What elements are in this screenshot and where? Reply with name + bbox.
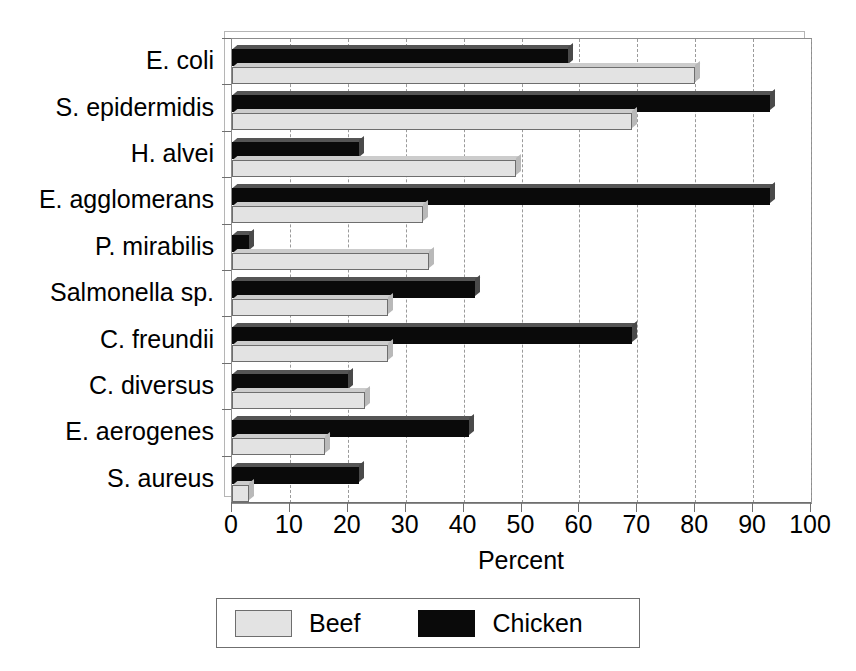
x-axis-tick-label: 20 <box>333 512 361 537</box>
y-axis-tick <box>222 38 231 39</box>
bar-group <box>232 132 811 178</box>
bar-end-cap <box>249 228 254 249</box>
bar-beef <box>232 67 695 84</box>
bar-face <box>232 392 365 409</box>
y-axis-tick <box>222 363 231 364</box>
category-label: S. epidermidis <box>56 95 214 120</box>
bar-end-cap <box>388 339 393 360</box>
category-label: E. aerogenes <box>65 419 214 444</box>
bar-group <box>232 410 811 456</box>
bar-beef <box>232 485 249 502</box>
category-label: E. coli <box>146 48 214 73</box>
bar-end-cap <box>423 200 428 221</box>
plot-area <box>231 38 812 504</box>
bar-end-cap <box>516 154 521 175</box>
bar-face <box>232 67 695 84</box>
bar-end-cap <box>429 246 434 267</box>
legend: BeefChicken <box>216 598 640 648</box>
bar-beef <box>232 392 365 409</box>
bar-beef <box>232 345 388 362</box>
x-axis-title: Percent <box>231 548 811 573</box>
gridline <box>811 39 812 503</box>
bar-group <box>232 85 811 131</box>
bar-end-cap <box>365 386 370 407</box>
category-label: P. mirabilis <box>95 234 214 259</box>
bar-end-cap <box>632 107 637 128</box>
x-axis-tick-label: 100 <box>789 512 831 537</box>
bar-group <box>232 317 811 363</box>
bar-group <box>232 364 811 410</box>
bar-end-cap <box>359 460 364 481</box>
bar-face <box>232 299 388 316</box>
legend-label: Beef <box>309 611 360 636</box>
y-axis-tick <box>222 177 231 178</box>
x-axis-tick-label: 30 <box>391 512 419 537</box>
y-axis-tick <box>222 316 231 317</box>
category-label: E. agglomerans <box>39 187 214 212</box>
bar-beef <box>232 160 516 177</box>
bar-end-cap <box>568 43 573 64</box>
category-axis-labels: E. coliS. epidermidisH. alveiE. agglomer… <box>0 38 222 502</box>
legend-entry-chicken: Chicken <box>418 610 582 637</box>
bar-end-cap <box>359 136 364 157</box>
horizontal-bar-chart: E. coliS. epidermidisH. alveiE. agglomer… <box>0 0 856 671</box>
y-axis-tick <box>222 456 231 457</box>
x-axis-tick-label: 90 <box>738 512 766 537</box>
x-axis-tick-label: 80 <box>680 512 708 537</box>
x-axis-tick-label: 0 <box>224 512 238 537</box>
y-axis-tick <box>222 224 231 225</box>
category-label: S. aureus <box>107 466 214 491</box>
legend-entry-beef: Beef <box>235 610 360 637</box>
bar-group <box>232 39 811 85</box>
bar-face <box>232 253 429 270</box>
bar-end-cap <box>770 89 775 110</box>
bar-end-cap <box>632 321 637 342</box>
bar-end-cap <box>388 293 393 314</box>
bar-face <box>232 113 632 130</box>
bar-group <box>232 178 811 224</box>
bar-face <box>232 438 325 455</box>
category-label: C. freundii <box>100 327 214 352</box>
bar-face <box>232 160 516 177</box>
x-axis-tick-label: 10 <box>275 512 303 537</box>
bar-beef <box>232 299 388 316</box>
bar-end-cap <box>469 414 474 435</box>
bar-end-cap <box>325 432 330 453</box>
bar-face <box>232 485 249 502</box>
bar-face <box>232 345 388 362</box>
bar-group <box>232 457 811 503</box>
bar-end-cap <box>770 182 775 203</box>
category-label: H. alvei <box>131 141 214 166</box>
legend-swatch-chicken <box>418 610 475 637</box>
bar-end-cap <box>475 275 480 296</box>
bar-end-cap <box>249 478 254 499</box>
bar-beef <box>232 113 632 130</box>
bar-beef <box>232 206 423 223</box>
legend-swatch-beef <box>235 610 292 637</box>
x-axis-tick-label: 40 <box>449 512 477 537</box>
bar-group <box>232 271 811 317</box>
category-label: Salmonella sp. <box>50 280 214 305</box>
bar-beef <box>232 438 325 455</box>
x-axis-tick-label: 50 <box>507 512 535 537</box>
bar-beef <box>232 253 429 270</box>
y-axis-tick <box>222 84 231 85</box>
y-axis-tick <box>222 409 231 410</box>
bar-end-cap <box>348 368 353 389</box>
y-axis-tick <box>222 131 231 132</box>
bar-end-cap <box>695 61 700 82</box>
legend-label: Chicken <box>492 611 582 636</box>
bar-face <box>232 206 423 223</box>
bar-group <box>232 225 811 271</box>
y-axis-tick <box>222 270 231 271</box>
x-axis-tick-label: 60 <box>564 512 592 537</box>
category-label: C. diversus <box>89 373 214 398</box>
x-axis-tick-label: 70 <box>622 512 650 537</box>
